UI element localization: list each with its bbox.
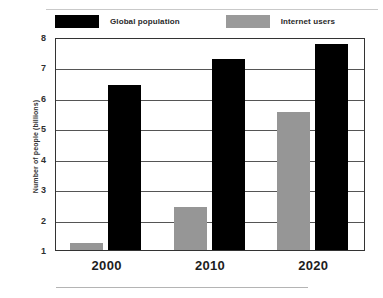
bar-2010-internet-users xyxy=(174,207,207,251)
legend-label-internet-users: Internet users xyxy=(281,17,335,26)
bottom-divider-rule xyxy=(56,287,308,288)
y-tick-label: 3 xyxy=(26,185,46,195)
x-tick-label-2020: 2020 xyxy=(278,258,348,273)
x-tick-label-2010: 2010 xyxy=(175,258,245,273)
y-tick-label: 2 xyxy=(26,216,46,226)
gray-swatch-icon xyxy=(226,15,270,28)
y-tick-label: 5 xyxy=(26,124,46,134)
y-axis-title: Number of people (billions) xyxy=(32,67,39,227)
bar-2000-global-population xyxy=(108,85,141,251)
bar-2020-global-population xyxy=(315,44,348,251)
legend-item-internet-users: Internet users xyxy=(226,15,335,28)
y-tick-label: 8 xyxy=(26,33,46,43)
chart-legend: Global population Internet users xyxy=(55,14,335,28)
legend-item-global-population: Global population xyxy=(55,15,180,28)
x-tick-label-2000: 2000 xyxy=(72,258,142,273)
bar-chart-figure: Global population Internet users Number … xyxy=(0,0,383,298)
black-swatch-icon xyxy=(55,15,99,28)
bar-2010-global-population xyxy=(212,59,245,251)
top-divider-rule xyxy=(46,9,378,10)
y-tick-label: 6 xyxy=(26,94,46,104)
bar-2000-internet-users xyxy=(70,243,103,251)
plot-area xyxy=(55,38,365,251)
y-tick-label: 1 xyxy=(26,246,46,256)
y-tick-label: 7 xyxy=(26,63,46,73)
bar-series-container xyxy=(56,39,364,250)
bar-2020-internet-users xyxy=(277,112,310,251)
y-tick-label: 4 xyxy=(26,155,46,165)
legend-label-global-population: Global population xyxy=(110,17,180,26)
